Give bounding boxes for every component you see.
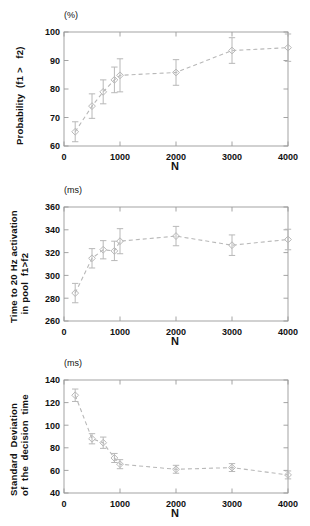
x-tick-label: 4000 [278, 499, 298, 509]
panel-standard-deviation: (ms) Standard Deviationof the decision t… [0, 350, 310, 526]
data-point [285, 229, 292, 250]
y-tick-label: 70 [50, 113, 60, 123]
data-point [89, 434, 96, 444]
panel-probability: (%) Probability (f1 > f2) 01000200030004… [0, 0, 310, 175]
plot-area-probability: 0100020003000400010090807060 [0, 0, 310, 175]
data-point [117, 460, 124, 469]
data-point [89, 249, 96, 268]
x-tick-label: 1000 [110, 327, 130, 337]
data-point [117, 59, 124, 92]
x-tick-label: 1000 [110, 152, 130, 162]
y-tick-label: 100 [45, 421, 60, 431]
y-tick-label: 260 [45, 316, 60, 326]
x-tick-label: 0 [61, 327, 66, 337]
data-point [72, 122, 79, 142]
y-tick-label: 120 [45, 398, 60, 408]
x-axis-label-n: N [145, 160, 205, 172]
panel-time: (ms) Time to 20 Hz activation in pool f1… [0, 175, 310, 350]
data-point [100, 241, 107, 259]
y-tick-label: 360 [45, 202, 60, 212]
plot-area-sd: 01000200030004000140120100806040 [0, 350, 310, 526]
data-point [285, 34, 292, 61]
y-tick-label: 80 [50, 443, 60, 453]
figure-root: (%) Probability (f1 > f2) 01000200030004… [0, 0, 310, 526]
x-tick-label: 0 [61, 152, 66, 162]
y-tick-label: 320 [45, 248, 60, 258]
data-point [100, 80, 107, 104]
y-tick-label: 100 [45, 27, 60, 37]
data-point [72, 389, 79, 401]
data-point [111, 241, 118, 260]
y-tick-label: 80 [50, 84, 60, 94]
x-axis-label-n-2: N [145, 335, 205, 347]
data-point [173, 465, 180, 473]
data-point [72, 283, 79, 302]
y-tick-label: 60 [50, 466, 60, 476]
y-tick-label: 60 [50, 141, 60, 151]
data-point [89, 94, 96, 119]
x-tick-label: 4000 [278, 152, 298, 162]
data-series-line [75, 236, 288, 293]
y-tick-label: 280 [45, 294, 60, 304]
y-tick-label: 140 [45, 375, 60, 385]
axis-frame [64, 380, 288, 493]
x-tick-label: 1000 [110, 499, 130, 509]
axis-frame [64, 207, 288, 321]
data-point [111, 67, 118, 93]
x-tick-label: 3000 [222, 152, 242, 162]
y-tick-label: 40 [50, 488, 60, 498]
x-axis-label-n-3: N [145, 507, 205, 519]
x-tick-label: 4000 [278, 327, 298, 337]
x-tick-label: 3000 [222, 327, 242, 337]
x-tick-label: 0 [61, 499, 66, 509]
data-series-line [75, 395, 288, 475]
y-tick-label: 90 [50, 56, 60, 66]
y-tick-label: 340 [45, 225, 60, 235]
plot-area-time: 01000200030004000360340320300280260 [0, 175, 310, 350]
y-tick-label: 300 [45, 271, 60, 281]
data-series-line [75, 48, 288, 132]
x-tick-label: 3000 [222, 499, 242, 509]
data-point [229, 464, 236, 472]
